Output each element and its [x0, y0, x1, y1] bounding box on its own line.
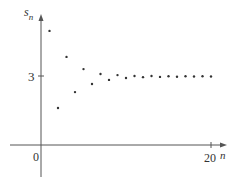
x-tick-label-20: 20	[204, 152, 216, 164]
data-point	[142, 76, 144, 78]
data-point	[74, 91, 76, 93]
x-tick-label-0: 0	[33, 151, 39, 163]
data-point	[150, 75, 152, 77]
data-point	[91, 83, 93, 85]
data-point	[133, 75, 135, 77]
data-point	[65, 56, 67, 58]
data-point	[57, 107, 59, 109]
data-point	[108, 79, 110, 81]
data-point	[193, 75, 195, 77]
y-tick-label-3: 3	[28, 70, 35, 83]
data-point	[116, 74, 118, 76]
y-axis-arrow-icon	[39, 14, 44, 21]
data-point	[167, 75, 169, 77]
data-point	[201, 75, 203, 77]
data-point	[176, 75, 178, 77]
data-point	[210, 75, 212, 77]
data-point	[125, 77, 127, 79]
x-axis-arrow-icon	[220, 143, 227, 148]
y-axis-label-main: s	[24, 5, 29, 19]
x-axis-label: n	[220, 150, 226, 161]
axes	[10, 14, 227, 177]
y-axis-label-subscript: n	[29, 12, 34, 22]
data-point	[184, 75, 186, 77]
y-axis-label: sn	[24, 6, 33, 18]
data-point	[99, 73, 101, 75]
data-point	[82, 68, 84, 70]
data-points	[48, 30, 212, 109]
data-point	[159, 76, 161, 78]
data-point	[48, 30, 50, 32]
